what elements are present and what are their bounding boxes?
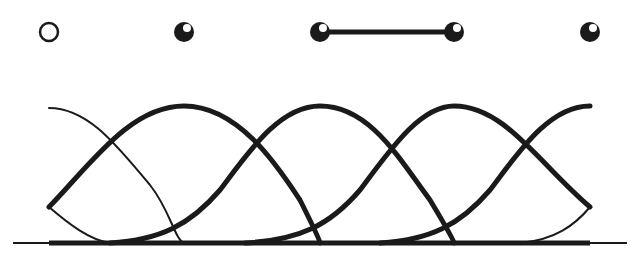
open-knot-icon xyxy=(40,23,58,41)
bspline-figure xyxy=(0,0,639,260)
filled-knot-icon xyxy=(174,22,194,42)
filled-knot-icon xyxy=(310,22,330,42)
filled-knot-icon xyxy=(580,22,600,42)
filled-knot-icon xyxy=(444,22,464,42)
basis-curve-0b xyxy=(49,207,110,243)
knot-markers xyxy=(40,22,600,42)
basis-curve-4b xyxy=(520,207,590,243)
basis-curve-3 xyxy=(245,106,590,243)
